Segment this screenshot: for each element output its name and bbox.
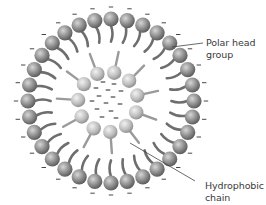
inner-head-bead [107,66,121,80]
outer-tail [167,72,182,78]
inner-head-bead [90,67,104,81]
inner-tail [143,91,158,94]
outer-head-bead [135,169,150,184]
outer-tail [96,27,99,43]
polar-head-group-label: Polar head group [206,37,255,61]
inner-tail [63,120,76,127]
outer-tail [36,112,52,115]
inner-head-bead [77,77,91,91]
outer-head-bead [87,13,102,28]
outer-head-bead [180,125,195,140]
outer-head-bead [34,139,49,154]
inner-head-bead [103,125,117,139]
outer-tail [35,100,51,102]
outer-tail [57,48,68,59]
outer-tail [69,150,78,163]
inner-tail [84,134,91,147]
micelle-diagram [0,0,266,205]
inner-head-bead [122,74,136,88]
outer-head-bead [180,62,195,77]
outer-tail [170,86,186,89]
polar-head-group-label-line1: Polar head [206,37,255,49]
outer-head-bead [186,93,201,108]
inner-head-bead [129,105,143,119]
inner-tail [111,138,112,153]
inner-head-bead [71,93,85,107]
outer-tail [154,48,165,59]
outer-tail [96,159,99,175]
outer-head-bead [57,25,72,40]
outer-tail [154,143,165,154]
outer-head-bead [27,62,42,77]
outer-head-bead [72,169,87,184]
inner-tail [90,54,95,68]
outer-charges [14,7,208,195]
hydrophobic-chain-label-line1: Hydrophobic [205,180,264,192]
outer-tail [134,156,140,171]
outer-head-bead [150,162,165,177]
outer-tail [161,59,174,68]
outer-tail [40,72,55,78]
outer-tail [161,134,174,143]
outer-tail [48,59,61,68]
inner-tail [142,115,156,120]
hydrophobic-chain-label: Hydrophobic chain [205,180,264,204]
outer-head-bead [185,109,200,124]
inner-tail [130,131,139,143]
outer-head-bead [120,174,135,189]
outer-head-bead [72,18,87,33]
inner-head-bead [119,119,133,133]
outer-head-bead [57,162,72,177]
inner-tail [116,52,119,67]
outer-head-bead [185,77,200,92]
outer-tail [111,26,113,42]
outer-head-bead [34,48,49,63]
outer-head-bead [45,35,60,50]
outer-tail [48,134,61,143]
outer-tail [170,113,186,116]
inner-head-bead [87,121,101,135]
outer-head-bead [22,109,37,124]
outer-head-bead [45,151,60,166]
outer-tail [82,31,88,46]
outer-tail [36,86,52,89]
inner-tail [67,72,79,81]
outer-head-bead [87,174,102,189]
inner-polar-heads [71,66,145,140]
outer-tail [40,124,55,130]
outer-head-bead [150,25,165,40]
hydrophobic-chain-label-line2: chain [205,192,264,204]
outer-head-bead [27,125,42,140]
inner-head-bead [75,109,89,123]
outer-tail [110,160,112,176]
outer-tail [171,101,187,103]
polar-head-group-label-line2: group [206,49,255,61]
outer-head-bead [22,77,37,92]
outer-head-bead [20,93,35,108]
outer-tail [123,27,126,43]
outer-head-bead [103,175,118,190]
outer-tail [145,38,154,51]
outer-head-bead [103,11,118,26]
inner-tail [134,66,145,77]
outer-head-bead [172,139,187,154]
outer-tail [122,159,125,175]
outer-tail [134,31,140,46]
outer-head-bead [135,18,150,33]
outer-head-bead [162,151,177,166]
core-charges [90,82,124,118]
outer-tail [167,124,182,130]
inner-head-bead [130,88,144,102]
inner-tail [57,99,72,100]
outer-head-bead [120,13,135,28]
outer-tail [57,143,68,154]
outer-head-bead [172,48,187,63]
outer-head-bead [162,35,177,50]
outer-tail [69,38,78,51]
outer-tail [82,156,88,171]
